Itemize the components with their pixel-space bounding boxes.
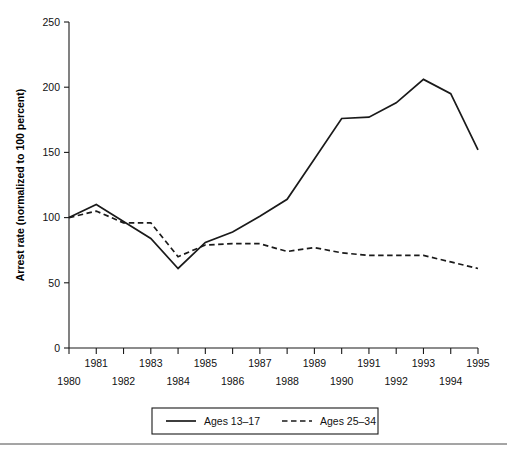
- x-tick-label: 1994: [439, 375, 463, 387]
- x-tick-label: 1984: [166, 375, 190, 387]
- series-line-ages-25-34: [69, 211, 478, 268]
- x-axis-ticks: [69, 348, 478, 354]
- x-axis-tick-labels: 1980198119821983198419851986198719881989…: [57, 357, 490, 387]
- y-axis-title: Arrest rate (normalized to 100 percent): [14, 89, 26, 282]
- legend-label-ages-25-34: Ages 25–34: [320, 415, 376, 427]
- x-tick-label: 1982: [112, 375, 136, 387]
- x-tick-label: 1995: [466, 357, 490, 369]
- x-tick-label: 1987: [248, 357, 272, 369]
- x-tick-label: 1988: [275, 375, 299, 387]
- series-line-ages-13-17: [69, 79, 478, 268]
- x-tick-label: 1985: [194, 357, 218, 369]
- x-tick-label: 1992: [385, 375, 409, 387]
- y-tick-label: 250: [42, 16, 60, 28]
- y-tick-label: 150: [42, 146, 60, 158]
- x-tick-label: 1980: [57, 375, 81, 387]
- x-tick-label: 1981: [85, 357, 109, 369]
- legend-label-ages-13-17: Ages 13–17: [204, 415, 260, 427]
- chart-legend: Ages 13–17 Ages 25–34: [152, 408, 378, 434]
- x-tick-label: 1989: [303, 357, 327, 369]
- x-tick-label: 1986: [221, 375, 245, 387]
- x-tick-label: 1993: [412, 357, 436, 369]
- x-tick-label: 1991: [357, 357, 381, 369]
- y-tick-label: 0: [54, 342, 60, 354]
- line-chart: Arrest rate (normalized to 100 percent) …: [0, 0, 507, 454]
- x-tick-label: 1983: [139, 357, 163, 369]
- y-tick-label: 200: [42, 81, 60, 93]
- y-tick-label: 50: [48, 277, 60, 289]
- chart-figure: Arrest rate (normalized to 100 percent) …: [0, 0, 507, 454]
- y-tick-label: 100: [42, 211, 60, 223]
- x-tick-label: 1990: [330, 375, 354, 387]
- y-axis-ticks: 050100150200250: [42, 16, 69, 354]
